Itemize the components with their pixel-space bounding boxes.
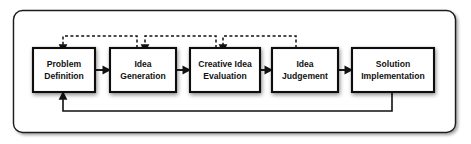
stage-label-solution-implementation-line2: Implementation — [361, 71, 425, 81]
stage-label-idea-judgement-line1: Idea — [296, 59, 313, 69]
process-diagram-canvas: Problem Definition Idea Generation Creat… — [0, 0, 471, 144]
stage-box-idea-generation[interactable]: Idea Generation — [110, 48, 176, 92]
stage-box-problem-definition[interactable]: Problem Definition — [33, 48, 95, 92]
stage-label-solution-implementation-line1: Solution — [376, 59, 410, 69]
stage-label-creative-idea-evaluation-line1: Creative Idea — [198, 59, 252, 69]
stage-label-creative-idea-evaluation-line2: Evaluation — [203, 71, 246, 81]
stage-label-problem-definition-line2: Definition — [44, 71, 84, 81]
stage-box-idea-judgement[interactable]: Idea Judgement — [272, 48, 338, 92]
stage-label-idea-generation-line2: Generation — [120, 71, 165, 81]
stage-box-solution-implementation[interactable]: Solution Implementation — [352, 48, 434, 92]
process-diagram: Problem Definition Idea Generation Creat… — [0, 0, 471, 144]
stage-boxes-group: Problem Definition Idea Generation Creat… — [33, 48, 434, 92]
stage-label-idea-generation-line1: Idea — [134, 59, 151, 69]
stage-label-problem-definition-line1: Problem — [47, 59, 82, 69]
stage-label-idea-judgement-line2: Judgement — [282, 71, 328, 81]
stage-box-creative-idea-evaluation[interactable]: Creative Idea Evaluation — [190, 48, 260, 92]
